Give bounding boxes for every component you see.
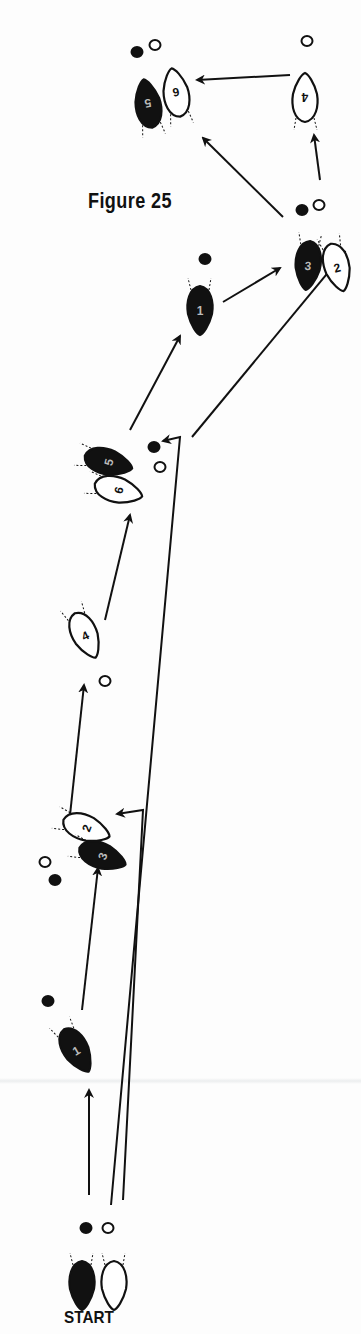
heel-mark-light [155, 462, 166, 472]
footprint-step-6a: 6 [84, 470, 146, 509]
footprint-step-2a: 2 [52, 805, 114, 848]
heel-mark-light [100, 676, 111, 686]
step-arrow [82, 868, 98, 1010]
heel-mark-dark [81, 1223, 92, 1233]
heel-mark-dark [149, 442, 160, 452]
heel-mark-dark [200, 254, 211, 264]
heel-mark-dark [43, 996, 54, 1006]
footprint-step-5a: 5 [74, 442, 136, 481]
heel-mark-light [150, 40, 161, 50]
footprint-start-left [69, 1253, 94, 1310]
heel-mark-light [40, 857, 51, 867]
footprint-diagram: 123456132456 [0, 0, 361, 1334]
step-arrow [192, 252, 345, 437]
footprint-step-2b: 2 [317, 233, 356, 295]
return-path-arrow [117, 810, 143, 1200]
footprints: 123456132456 [49, 66, 356, 1310]
step-arrow [197, 75, 290, 80]
step-arrow [223, 268, 280, 302]
footprint-start-right [101, 1253, 126, 1310]
footprint-step-1a: 1 [49, 1016, 99, 1078]
footprint-step-4a: 4 [60, 601, 107, 663]
heel-mark-light [314, 200, 325, 210]
heel-mark-dark [132, 47, 143, 57]
step-arrow [314, 135, 320, 180]
footprint-step-1b: 1 [187, 278, 212, 335]
step-arrow [130, 336, 180, 430]
start-label: START [64, 1308, 114, 1328]
heel-mark-dark [50, 875, 61, 885]
step-arrow [70, 685, 84, 815]
step-number: 4 [301, 90, 308, 104]
step-number: 1 [197, 304, 204, 318]
dance-step-diagram: 123456132456 Figure 25 START [0, 0, 361, 1334]
footprint-step-6b: 6 [159, 66, 194, 127]
step-arrow [203, 138, 283, 217]
footprint-step-4b: 4 [292, 73, 317, 130]
heel-mark-light [103, 1223, 114, 1233]
heel-mark-light [302, 36, 313, 46]
heel-mark-dark [297, 205, 308, 215]
step-arrow [105, 515, 130, 620]
footprint-step-5b: 5 [131, 77, 166, 138]
figure-title: Figure 25 [88, 188, 172, 214]
